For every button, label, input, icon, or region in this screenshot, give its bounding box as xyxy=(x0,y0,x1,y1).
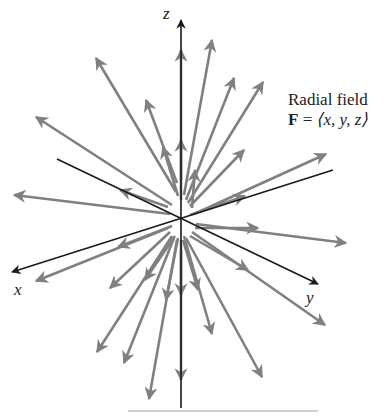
y-axis-label: y xyxy=(306,288,314,308)
caption-title: Radial field xyxy=(288,90,368,110)
formula-components: ⟨x, y, z⟩ xyxy=(316,110,368,129)
radial-vector-field-figure: z x y Radial field F = ⟨x, y, z⟩ xyxy=(0,0,390,416)
figure-caption: Radial field F = ⟨x, y, z⟩ xyxy=(288,90,368,130)
field-arrow xyxy=(184,236,212,334)
equals-sign: = xyxy=(298,110,316,129)
coordinate-axes xyxy=(12,20,333,408)
field-arrow xyxy=(96,58,176,192)
caption-formula: F = ⟨x, y, z⟩ xyxy=(288,110,368,130)
vector-symbol: F xyxy=(288,110,298,129)
x-axis-label: x xyxy=(14,280,22,300)
field-arrow xyxy=(146,100,177,183)
field-arrow xyxy=(186,238,262,377)
field-arrow xyxy=(36,117,172,205)
bottom-divider xyxy=(128,410,318,412)
field-arrow xyxy=(14,195,170,214)
z-axis-label: z xyxy=(163,4,170,24)
field-arrow xyxy=(190,236,248,270)
vector-field-plot xyxy=(0,0,390,416)
